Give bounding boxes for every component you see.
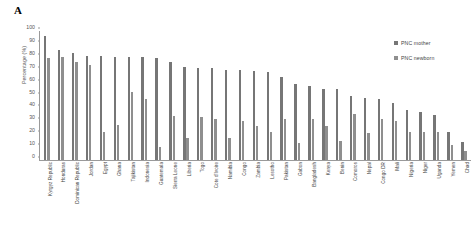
y-tick-label: 30 bbox=[29, 116, 35, 121]
bar-group bbox=[267, 31, 273, 160]
bar-newborn bbox=[353, 114, 355, 160]
bar-group bbox=[364, 31, 370, 160]
bar-newborn bbox=[312, 119, 314, 160]
bar-newborn bbox=[200, 117, 202, 160]
legend-label: PNC newborn bbox=[401, 55, 434, 61]
x-tick-label: Mali bbox=[396, 162, 401, 171]
panel-label: A bbox=[14, 4, 22, 16]
bar-mother bbox=[86, 56, 88, 160]
x-tick-label: Kyrgyz Republic bbox=[49, 162, 54, 196]
bar-group bbox=[461, 31, 467, 160]
x-tick-label: Guatemala bbox=[160, 162, 165, 185]
bar-newborn bbox=[464, 151, 466, 160]
x-tick-label: Honduras bbox=[62, 162, 67, 182]
bar-newborn bbox=[103, 132, 105, 160]
x-tick-label: Jordan bbox=[90, 162, 95, 176]
bar-group bbox=[114, 31, 120, 160]
y-tick-label: 70 bbox=[29, 64, 35, 69]
x-tick-label: Dominican Republic bbox=[76, 162, 81, 204]
bar-group bbox=[350, 31, 356, 160]
bar-newborn bbox=[186, 138, 188, 160]
bar-newborn bbox=[228, 138, 230, 160]
legend-swatch-icon bbox=[394, 56, 398, 60]
x-tick-label: Uganda bbox=[438, 162, 443, 178]
bar-newborn bbox=[409, 132, 411, 160]
x-tick-label: Namibia bbox=[229, 162, 234, 179]
bar-newborn bbox=[75, 62, 77, 160]
bar-newborn bbox=[47, 58, 49, 160]
bar-newborn bbox=[173, 116, 175, 160]
bar-mother bbox=[100, 56, 102, 160]
bar-mother bbox=[267, 72, 269, 160]
y-tick-label: 60 bbox=[29, 77, 35, 82]
bar-mother bbox=[141, 57, 143, 160]
x-tick-label: Ghana bbox=[118, 162, 123, 176]
bar-group bbox=[44, 31, 50, 160]
y-tick-label: 10 bbox=[29, 141, 35, 146]
bar-mother bbox=[461, 142, 463, 160]
x-tick-label: Indonesia bbox=[146, 162, 151, 182]
bar-mother bbox=[294, 84, 296, 160]
bar-mother bbox=[197, 68, 199, 160]
bar-group bbox=[225, 31, 231, 160]
bar-group bbox=[447, 31, 453, 160]
bar-newborn bbox=[89, 65, 91, 160]
x-tick-label: Lesotho bbox=[271, 162, 276, 179]
bar-newborn bbox=[270, 132, 272, 160]
x-tick-label: Togo bbox=[201, 162, 206, 172]
x-tick-label: Congo DR bbox=[382, 162, 387, 184]
bar-mother bbox=[419, 112, 421, 160]
y-tick-label: 50 bbox=[29, 90, 35, 95]
bar-group bbox=[155, 31, 161, 160]
bar-mother bbox=[447, 132, 449, 160]
bar-group bbox=[58, 31, 64, 160]
x-tick-label: Gabon bbox=[299, 162, 304, 176]
bar-group bbox=[169, 31, 175, 160]
x-tick-label: Nigeria bbox=[410, 162, 415, 177]
bar-group bbox=[211, 31, 217, 160]
bar-mother bbox=[225, 70, 227, 160]
bar-newborn bbox=[381, 119, 383, 160]
bar-group bbox=[239, 31, 245, 160]
bar-group bbox=[336, 31, 342, 160]
bar-newborn bbox=[284, 119, 286, 160]
bar-newborn bbox=[242, 121, 244, 160]
x-tick-label: Kenya bbox=[327, 162, 332, 175]
x-tick-label: Comoros bbox=[354, 162, 359, 181]
bar-mother bbox=[114, 57, 116, 160]
legend-item: PNC newborn bbox=[394, 55, 434, 61]
y-tick-label: 40 bbox=[29, 103, 35, 108]
legend-item: PNC mother bbox=[394, 40, 434, 46]
x-tick-label: Egypt bbox=[104, 162, 109, 174]
bar-newborn bbox=[145, 99, 147, 160]
y-tick-label: 0 bbox=[32, 154, 35, 159]
bar-newborn bbox=[61, 57, 63, 160]
bar-mother bbox=[322, 89, 324, 160]
x-axis-tick-labels: Kyrgyz RepublicHondurasDominican Republi… bbox=[40, 162, 471, 238]
bar-newborn bbox=[159, 147, 161, 160]
x-tick-label: Benin bbox=[341, 162, 346, 174]
bar-newborn bbox=[131, 92, 133, 160]
bar-mother bbox=[378, 99, 380, 160]
x-tick-label: Yemen bbox=[452, 162, 457, 176]
bar-group bbox=[128, 31, 134, 160]
bar-mother bbox=[433, 115, 435, 160]
chart-panel: A Percentage (%) 0102030405060708090100 … bbox=[0, 0, 474, 239]
bar-mother bbox=[72, 53, 74, 160]
y-tick-label: 90 bbox=[29, 38, 35, 43]
chart-legend: PNC motherPNC newborn bbox=[394, 40, 434, 70]
bar-mother bbox=[280, 77, 282, 160]
bar-newborn bbox=[117, 125, 119, 160]
bar-mother bbox=[364, 98, 366, 160]
bar-mother bbox=[128, 57, 130, 160]
x-tick-label: Cote d'Ivoire bbox=[215, 162, 220, 188]
x-tick-label: Chad bbox=[466, 162, 471, 173]
bar-group bbox=[378, 31, 384, 160]
legend-swatch-icon bbox=[394, 41, 398, 45]
x-tick-label: Nepal bbox=[368, 162, 373, 174]
x-tick-label: Niger bbox=[424, 162, 429, 173]
bar-mother bbox=[392, 103, 394, 160]
x-tick-label: Pakistan bbox=[285, 162, 290, 180]
bar-mother bbox=[350, 96, 352, 161]
x-axis-line bbox=[39, 160, 471, 161]
